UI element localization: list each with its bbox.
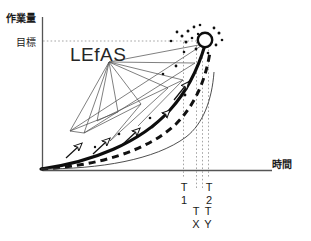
lefas-label: LEfAS bbox=[70, 44, 126, 66]
tick-label-t1-bottom: 1 bbox=[178, 195, 190, 206]
figure-canvas: 作業量 目標 時間 LEfAS T 1 T 2 T X T Y bbox=[0, 0, 311, 241]
diagram-svg bbox=[0, 0, 311, 241]
x-axis-title: 時間 bbox=[272, 156, 292, 171]
tick-label-tx-bottom: X bbox=[190, 219, 202, 230]
y-axis-title: 作業量 bbox=[6, 10, 36, 25]
tick-label-ty-top: T bbox=[202, 206, 214, 217]
goal-circle-marker bbox=[198, 33, 212, 47]
tick-label-tx-top: T bbox=[190, 206, 202, 217]
tick-label-t1-top: T bbox=[178, 182, 190, 193]
target-label: 目標 bbox=[16, 34, 36, 49]
tick-label-t2-top: T bbox=[203, 182, 215, 193]
tick-label-ty-bottom: Y bbox=[202, 219, 214, 230]
